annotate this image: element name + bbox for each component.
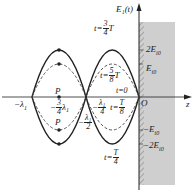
point-dashed-trough bbox=[57, 128, 61, 132]
xtick-minus-three-quarter-lambda: −34λ1 bbox=[50, 99, 69, 116]
vertical-axis-label: E₁(t) bbox=[116, 5, 133, 14]
label-t-three-quarter-T: t=34T bbox=[94, 20, 114, 37]
ytick-minus-E: −Ei0 bbox=[143, 125, 159, 136]
ytick-minus-2E: −2Ei0 bbox=[143, 141, 164, 152]
ytick-E: Ei0 bbox=[146, 64, 156, 75]
point-solid-trough bbox=[57, 142, 61, 146]
xtick-minus-half-lambda: −λ₁2 bbox=[78, 114, 92, 131]
label-P-lower: P bbox=[55, 118, 61, 127]
horizontal-axis-label: z bbox=[186, 100, 190, 109]
label-t-five-eighth-T: t=58T bbox=[100, 67, 120, 84]
label-t-eighth-T: t=T8 bbox=[110, 99, 125, 116]
point-dashed-peak bbox=[57, 62, 61, 66]
origin-label: O bbox=[141, 99, 148, 108]
ytick-2E: 2Ei0 bbox=[146, 45, 161, 56]
xtick-minus-quarter-lambda: −λ₁4 bbox=[92, 99, 106, 116]
diagram-root: E₁(t) z O 2Ei0 Ei0 −Ei0 −2Ei0 −λ1 −34λ1 … bbox=[0, 0, 196, 195]
xtick-minus-lambda1: −λ1 bbox=[14, 100, 27, 111]
point-solid-peak bbox=[57, 48, 61, 52]
label-t-zero: t=0 bbox=[116, 87, 128, 95]
vertical-axis-arrow-icon bbox=[137, 3, 142, 11]
label-t-quarter-T: t=T4 bbox=[104, 149, 119, 166]
label-P-upper: P bbox=[55, 87, 61, 96]
